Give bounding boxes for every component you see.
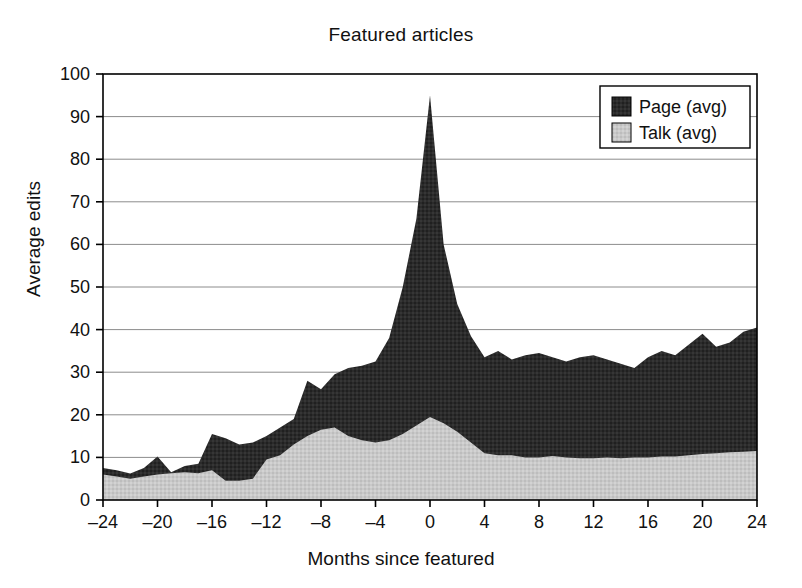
chart-figure: Featured articles Average edits Months s… xyxy=(0,0,802,588)
legend-swatch xyxy=(612,97,631,116)
x-tick-label: 20 xyxy=(692,512,712,532)
y-axis-ticks: 0102030405060708090100 xyxy=(60,64,103,510)
x-tick-label: –8 xyxy=(311,512,331,532)
x-tick-label: 0 xyxy=(425,512,435,532)
x-axis-ticks: –24–20–16–12–8–404812162024 xyxy=(88,500,767,532)
legend-label: Talk (avg) xyxy=(639,123,717,143)
legend-swatch xyxy=(612,123,631,142)
y-tick-label: 20 xyxy=(70,405,90,425)
y-tick-label: 90 xyxy=(70,107,90,127)
x-tick-label: 4 xyxy=(479,512,489,532)
y-tick-label: 80 xyxy=(70,149,90,169)
x-tick-label: –16 xyxy=(197,512,227,532)
x-tick-label: 16 xyxy=(638,512,658,532)
x-tick-label: 8 xyxy=(534,512,544,532)
y-tick-label: 60 xyxy=(70,234,90,254)
data-areas xyxy=(103,95,757,500)
chart-legend: Page (avg)Talk (avg) xyxy=(600,86,750,148)
x-tick-label: 12 xyxy=(583,512,603,532)
y-tick-label: 40 xyxy=(70,320,90,340)
x-tick-label: –4 xyxy=(365,512,385,532)
x-tick-label: –24 xyxy=(88,512,118,532)
x-tick-label: 24 xyxy=(747,512,767,532)
x-tick-label: –12 xyxy=(251,512,281,532)
y-tick-label: 30 xyxy=(70,362,90,382)
y-tick-label: 70 xyxy=(70,192,90,212)
y-tick-label: 0 xyxy=(80,490,90,510)
plot-area: –24–20–16–12–8–404812162024 010203040506… xyxy=(0,0,802,588)
legend-label: Page (avg) xyxy=(639,97,727,117)
y-tick-label: 50 xyxy=(70,277,90,297)
y-tick-label: 10 xyxy=(70,447,90,467)
y-tick-label: 100 xyxy=(60,64,90,84)
x-tick-label: –20 xyxy=(142,512,172,532)
